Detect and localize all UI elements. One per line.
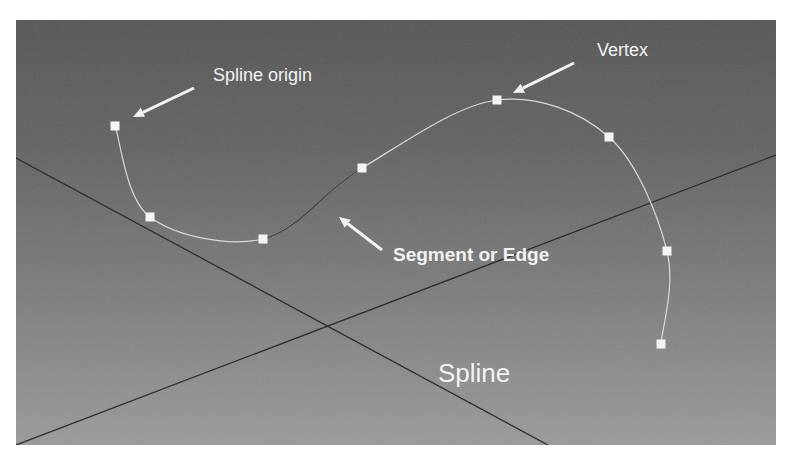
spline-origin-vertex[interactable] — [111, 122, 120, 131]
vertex-label: Vertex — [597, 41, 648, 59]
vertex-handle[interactable] — [146, 213, 155, 222]
spline-scene — [16, 20, 776, 445]
viewport: Spline origin Vertex Segment or Edge Spl… — [16, 20, 776, 445]
vertex-handle[interactable] — [657, 340, 666, 349]
vertex-handle[interactable] — [358, 164, 367, 173]
vertex-handle[interactable] — [259, 235, 268, 244]
segment-label: Segment or Edge — [393, 245, 549, 264]
vertex-handle[interactable] — [663, 247, 672, 256]
spline-title-label: Spline — [438, 360, 510, 386]
vertex-handle[interactable] — [605, 133, 614, 142]
spline-origin-label: Spline origin — [213, 66, 312, 84]
vertex-handle[interactable] — [493, 96, 502, 105]
